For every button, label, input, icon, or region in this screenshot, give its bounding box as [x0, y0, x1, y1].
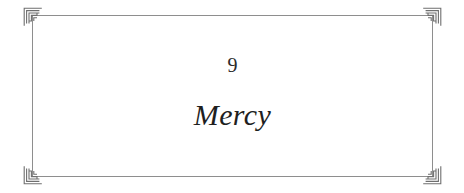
page-canvas: 9 Mercy	[0, 0, 464, 193]
chapter-number: 9	[227, 55, 237, 75]
chapter-heading-block: 9 Mercy	[32, 15, 433, 177]
chapter-frame: 9 Mercy	[32, 15, 433, 177]
chapter-title: Mercy	[194, 100, 272, 130]
